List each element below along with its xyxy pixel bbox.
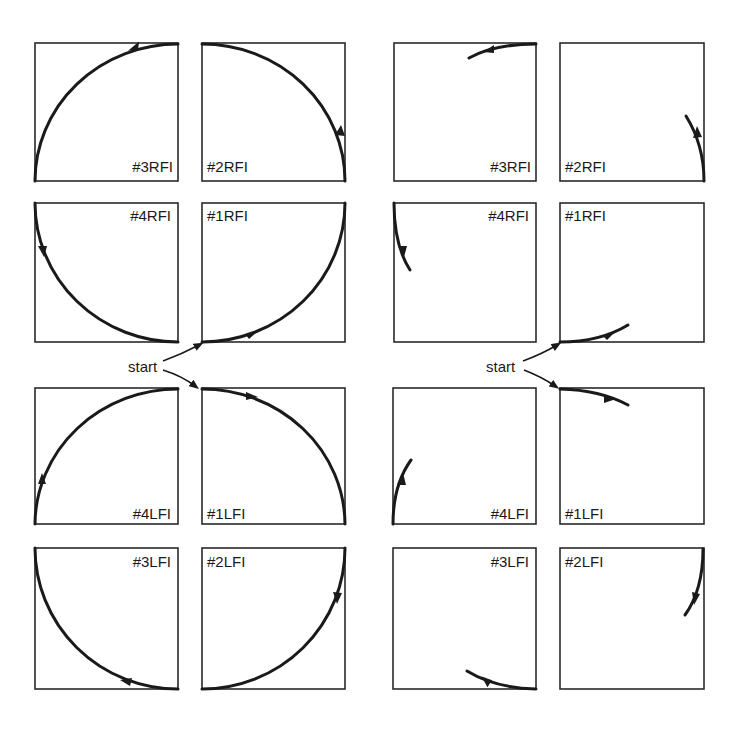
box-label: #2RFI <box>207 158 248 175</box>
box-3rfi-right: #3RFI <box>394 43 536 181</box>
start-arrow-down <box>524 370 555 386</box>
box-label: #4RFI <box>488 207 529 224</box>
box-1lfi-left: #1LFI <box>202 388 345 524</box>
box-4lfi-left: #4LFI <box>35 388 178 524</box>
box-label: #3LFI <box>491 553 529 570</box>
box-2lfi-left: #2LFI <box>202 548 345 689</box>
box-1rfi-left: #1RFI <box>202 203 345 342</box>
start-arrow-up <box>523 345 557 361</box>
box-2rfi-left: #2RFI <box>202 43 345 181</box>
box-label: #4RFI <box>130 207 171 224</box>
box-label: #3RFI <box>490 158 531 175</box>
box-4rfi-left: #4RFI <box>35 203 178 342</box>
box-label: #2LFI <box>565 553 603 570</box>
start-arrow-down <box>163 370 195 386</box>
diagram-canvas: #3RFI #2RFI #4RFI #1RFI start <box>0 0 740 732</box>
start-arrow-up <box>163 345 199 361</box>
left-panel: #3RFI #2RFI #4RFI #1RFI start <box>35 41 345 689</box>
box-label: #2LFI <box>207 553 245 570</box>
box-2lfi-right: #2LFI <box>560 548 704 689</box>
box-3lfi-right: #3LFI <box>393 548 536 689</box>
box-label: #1LFI <box>207 505 245 522</box>
box-label: #4LFI <box>133 505 171 522</box>
box-label: #2RFI <box>565 158 606 175</box>
box-4rfi-right: #4RFI <box>394 203 536 342</box>
start-label: start <box>486 358 516 375</box>
box-3lfi-left: #3LFI <box>35 548 178 689</box>
box-label: #3LFI <box>133 553 171 570</box>
box-3rfi-left: #3RFI <box>35 41 178 181</box>
box-label: #4LFI <box>491 505 529 522</box>
right-panel: #3RFI #2RFI #4RFI #1RFI start <box>393 43 704 689</box>
box-1lfi-right: #1LFI <box>560 388 704 524</box>
box-4lfi-right: #4LFI <box>393 388 536 524</box>
box-label: #1RFI <box>565 207 606 224</box>
start-label: start <box>128 358 158 375</box>
box-label: #3RFI <box>132 158 173 175</box>
box-label: #1LFI <box>565 505 603 522</box>
box-label: #1RFI <box>207 207 248 224</box>
box-1rfi-right: #1RFI <box>560 203 704 342</box>
box-2rfi-right: #2RFI <box>560 43 704 181</box>
